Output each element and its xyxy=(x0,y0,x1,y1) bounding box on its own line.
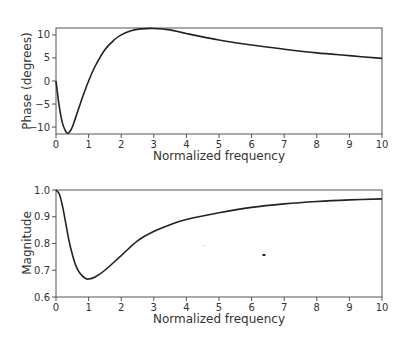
phase-curve xyxy=(56,28,382,133)
magnitude-y-tick-label: 0.6 xyxy=(34,292,50,303)
magnitude-chart: 1.00.90.80.70.6 012345678910 Normalized … xyxy=(20,185,388,327)
faint-dot-artifact xyxy=(203,245,205,247)
magnitude-x-tick-label: 2 xyxy=(118,302,124,313)
phase-y-tick-label: −5 xyxy=(35,99,50,110)
magnitude-y-tick-label: 1.0 xyxy=(34,185,50,196)
phase-x-axis: 012345678910 xyxy=(53,134,389,150)
phase-y-tick-label: 0 xyxy=(44,76,50,87)
phase-x-tick-label: 1 xyxy=(85,139,91,150)
magnitude-x-tick-label: 10 xyxy=(376,302,389,313)
magnitude-x-tick-label: 1 xyxy=(85,302,91,313)
magnitude-x-tick-label: 8 xyxy=(314,302,320,313)
magnitude-x-axis-label: Normalized frequency xyxy=(153,312,285,326)
phase-y-tick-label: 5 xyxy=(44,52,50,63)
phase-x-tick-label: 9 xyxy=(346,139,352,150)
phase-x-tick-label: 10 xyxy=(376,139,389,150)
phase-plot-frame xyxy=(56,28,382,134)
magnitude-y-axis-label: Magnitude xyxy=(20,211,34,275)
magnitude-y-tick-label: 0.8 xyxy=(34,238,50,249)
phase-y-axis-label: Phase (degrees) xyxy=(20,32,34,129)
phase-x-axis-label: Normalized frequency xyxy=(153,149,285,163)
phase-x-tick-label: 0 xyxy=(53,139,59,150)
magnitude-plot-frame xyxy=(56,190,382,297)
stray-dot-artifact xyxy=(262,254,266,256)
phase-chart: 1050−5−10 012345678910 Normalized freque… xyxy=(20,28,388,163)
magnitude-x-axis: 012345678910 xyxy=(53,297,389,313)
magnitude-y-axis: 1.00.90.80.70.6 xyxy=(34,185,56,303)
magnitude-curve xyxy=(56,190,382,279)
phase-y-tick-label: 10 xyxy=(37,29,50,40)
magnitude-x-tick-label: 0 xyxy=(53,302,59,313)
phase-x-tick-label: 2 xyxy=(118,139,124,150)
magnitude-y-tick-label: 0.7 xyxy=(34,265,50,276)
phase-x-tick-label: 8 xyxy=(314,139,320,150)
magnitude-y-tick-label: 0.9 xyxy=(34,211,50,222)
magnitude-x-tick-label: 9 xyxy=(346,302,352,313)
figure: 1050−5−10 012345678910 Normalized freque… xyxy=(0,0,407,338)
